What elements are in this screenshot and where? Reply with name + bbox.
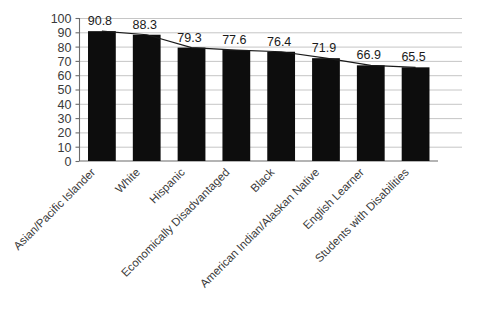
y-axis-tick-label: 50	[58, 83, 72, 97]
bar	[88, 31, 116, 161]
y-axis-tick-label: 80	[58, 41, 72, 55]
value-label: 77.6	[222, 33, 246, 47]
bar	[312, 58, 340, 161]
y-axis-tick-label: 70	[58, 55, 72, 69]
value-label: 79.3	[177, 31, 201, 45]
y-axis-tick-label: 10	[58, 141, 72, 155]
value-label: 76.4	[267, 35, 291, 49]
y-axis-tick-label: 30	[58, 112, 72, 126]
y-axis-tick-label: 40	[58, 98, 72, 112]
y-axis-tick-label: 0	[65, 155, 72, 169]
bar	[133, 35, 161, 161]
bar-chart: 0102030405060708090100 90.888.379.377.67…	[0, 0, 479, 313]
value-label: 88.3	[133, 18, 157, 32]
value-label: 66.9	[357, 48, 381, 62]
bar	[357, 65, 385, 161]
bar	[222, 50, 250, 161]
y-axis-tick-label: 90	[58, 26, 72, 40]
value-label: 71.9	[312, 41, 336, 55]
bar	[402, 67, 430, 161]
bar	[267, 52, 295, 161]
value-label: 90.8	[88, 14, 112, 28]
chart-canvas: 0102030405060708090100 90.888.379.377.67…	[0, 0, 479, 313]
y-axis-tick-label: 60	[58, 69, 72, 83]
y-axis-tick-label: 20	[58, 126, 72, 140]
y-axis-tick-label: 100	[51, 12, 72, 26]
value-label: 65.5	[401, 50, 425, 64]
bar	[178, 48, 206, 161]
